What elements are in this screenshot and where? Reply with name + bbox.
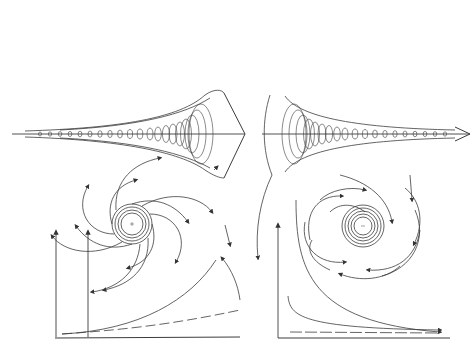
left-spiral — [52, 158, 212, 292]
left-funnel — [12, 90, 245, 178]
right-spiral — [304, 175, 420, 279]
right-funnel — [257, 95, 470, 258]
left-graph-axes — [55, 225, 240, 338]
right-graph-axes — [278, 200, 450, 338]
vortex-diagram — [0, 0, 473, 359]
